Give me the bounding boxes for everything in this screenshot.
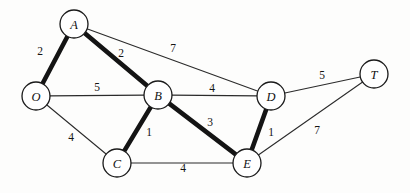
node-d[interactable]: D [257, 82, 285, 110]
edge-weight-a-o: 2 [37, 45, 43, 57]
node-label-o: O [31, 90, 40, 104]
nodes-layer: AOBDTCE [22, 10, 388, 177]
node-o[interactable]: O [22, 82, 50, 110]
node-t[interactable]: T [360, 60, 388, 88]
node-label-t: T [371, 68, 379, 82]
edge-a-o [42, 36, 68, 85]
node-a[interactable]: A [60, 10, 88, 38]
edge-weight-c-e: 4 [180, 162, 186, 174]
edge-weight-e-t: 7 [314, 124, 320, 136]
edge-weight-o-c: 4 [68, 131, 74, 143]
edge-weight-d-e: 1 [268, 126, 274, 138]
edge-d-e [251, 108, 266, 151]
node-c[interactable]: C [103, 149, 131, 177]
edges-layer [42, 28, 363, 163]
node-label-b: B [154, 89, 162, 103]
edge-o-b [49, 95, 145, 96]
edge-weight-b-c: 1 [146, 126, 152, 138]
node-label-a: A [69, 18, 78, 32]
node-label-c: C [113, 157, 122, 171]
edge-b-e [168, 103, 236, 155]
edge-o-c [46, 104, 107, 154]
edge-a-b [84, 32, 148, 86]
node-label-e: E [242, 157, 251, 171]
node-e[interactable]: E [233, 149, 261, 177]
weighted-graph-svg: AOBDTCE 227541434157 [0, 0, 410, 193]
graph-diagram-canvas: AOBDTCE 227541434157 [0, 0, 410, 193]
edge-weight-a-d: 7 [170, 42, 176, 54]
edge-weight-b-d: 4 [209, 82, 215, 94]
edge-weight-a-b: 2 [118, 47, 124, 59]
edge-weight-b-e: 3 [207, 116, 213, 128]
edge-weight-d-t: 5 [319, 69, 325, 81]
node-label-d: D [265, 90, 275, 104]
edge-b-d [171, 95, 258, 96]
edge-a-d [86, 28, 259, 91]
node-b[interactable]: B [144, 81, 172, 109]
edge-labels-layer: 227541434157 [37, 42, 325, 174]
edge-weight-o-b: 5 [94, 81, 100, 93]
